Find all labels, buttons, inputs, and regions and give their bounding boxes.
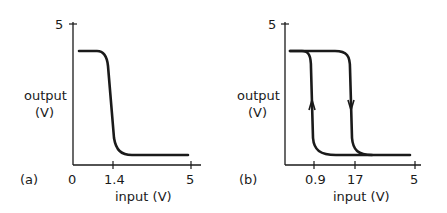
panel-b-xlabel: input (V) — [333, 189, 390, 204]
panel-b: 5 0.9 17 5 output (V) input (V) (b) — [237, 17, 421, 204]
panel-a-ylabel-line2: (V) — [35, 105, 54, 120]
panel-a-xtick-label-0: 0 — [68, 172, 76, 187]
panel-b-label: (b) — [239, 172, 257, 187]
panel-a-xlabel: input (V) — [115, 189, 172, 204]
panel-a-xtick-label-1: 1.4 — [104, 172, 125, 187]
panel-b-ytick-label: 5 — [268, 17, 276, 32]
panel-b-ylabel-line1: output — [237, 88, 280, 103]
panel-b-increasing-branch — [290, 51, 410, 155]
panel-b-ylabel-line2: (V) — [248, 105, 267, 120]
panel-b-xtick-label-2: 17 — [347, 172, 364, 187]
panel-b-xtick-label-1: 0.9 — [305, 172, 326, 187]
panel-a-label: (a) — [20, 172, 38, 187]
panel-a-ylabel-line1: output — [24, 88, 67, 103]
panel-b-xtick-label-3: 5 — [410, 172, 418, 187]
panel-a-ytick-label: 5 — [55, 17, 63, 32]
figure: 5 0 1.4 5 output (V) input (V) (a) 5 0.9… — [0, 0, 447, 213]
panel-b-decreasing-branch — [290, 51, 372, 155]
panel-a-transfer-curve — [79, 51, 188, 155]
panel-a: 5 0 1.4 5 output (V) input (V) (a) — [20, 17, 201, 204]
panel-a-xtick-label-2: 5 — [186, 172, 194, 187]
